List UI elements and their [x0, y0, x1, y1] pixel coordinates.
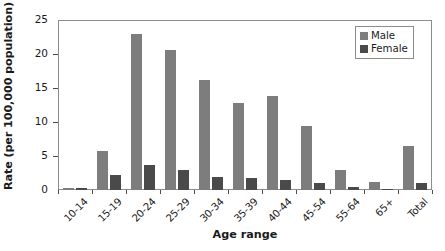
legend-swatch-icon	[360, 32, 368, 40]
bar-female-20-24	[144, 165, 156, 190]
x-tick-mark	[296, 190, 297, 194]
bar-group	[199, 20, 224, 190]
legend-swatch-icon	[360, 45, 368, 53]
x-tick-label: Total	[406, 196, 430, 220]
bar-female-40-44	[280, 180, 292, 190]
bar-female-10-14	[76, 188, 88, 190]
y-tick-label: 25	[35, 13, 48, 25]
x-tick-mark	[92, 190, 93, 194]
x-tick-mark	[364, 190, 365, 194]
x-tick-mark	[126, 190, 127, 194]
x-tick-mark	[398, 190, 399, 194]
x-tick-mark	[330, 190, 331, 194]
bar-female-55-64	[348, 187, 360, 190]
bar-group	[301, 20, 326, 190]
x-tick-label: 45-54	[300, 196, 328, 224]
bar-female-30-34	[212, 177, 224, 190]
bar-group	[63, 20, 88, 190]
bar-female-45-54	[314, 183, 326, 190]
bar-group	[131, 20, 156, 190]
bar-female-35-39	[246, 178, 258, 190]
x-tick-label: 35-39	[232, 196, 260, 224]
x-tick-label: 30-34	[198, 196, 226, 224]
legend-item-male: Male	[360, 29, 408, 42]
y-tick-label: 5	[41, 149, 48, 161]
y-tick-label: 15	[35, 81, 48, 93]
x-tick-label: 40-44	[266, 196, 294, 224]
bar-male-Total	[403, 146, 415, 190]
bar-male-20-24	[131, 34, 143, 190]
y-axis-title: Rate (per 100,000 population)	[2, 0, 20, 196]
bar-female-Total	[416, 183, 428, 190]
bar-group	[233, 20, 258, 190]
bar-group	[165, 20, 190, 190]
bar-chart: Rate (per 100,000 population) 0510152025…	[0, 0, 445, 251]
x-tick-mark	[194, 190, 195, 194]
legend-label: Female	[371, 42, 408, 55]
bar-group	[97, 20, 122, 190]
x-tick-label: 20-24	[130, 196, 158, 224]
legend-item-female: Female	[360, 42, 408, 55]
x-tick-mark	[432, 190, 433, 194]
x-tick-label: 25-29	[164, 196, 192, 224]
x-tick-mark	[160, 190, 161, 194]
x-tick-label: 15-19	[96, 196, 124, 224]
bar-male-45-54	[301, 126, 313, 190]
x-tick-mark	[262, 190, 263, 194]
chart-legend: MaleFemale	[355, 26, 414, 59]
bar-female-25-29	[178, 170, 190, 190]
y-tick-label: 20	[35, 47, 48, 59]
bar-male-10-14	[63, 188, 75, 190]
bar-male-30-34	[199, 80, 211, 190]
x-tick-label: 10-14	[62, 196, 90, 224]
bar-male-65+	[369, 182, 381, 190]
bar-male-40-44	[267, 96, 279, 190]
x-axis-title: Age range	[58, 228, 432, 241]
bar-group	[267, 20, 292, 190]
y-tick-label: 10	[35, 115, 48, 127]
bar-male-35-39	[233, 103, 245, 190]
legend-label: Male	[371, 29, 395, 42]
bar-female-65+	[382, 189, 394, 190]
x-tick-mark	[58, 190, 59, 194]
bar-male-55-64	[335, 170, 347, 190]
y-tick-label: 0	[41, 183, 48, 195]
bar-male-25-29	[165, 50, 177, 190]
x-tick-mark	[228, 190, 229, 194]
bar-female-15-19	[110, 175, 122, 190]
x-tick-label: 65+	[373, 196, 396, 219]
bar-male-15-19	[97, 151, 109, 190]
x-tick-label: 55-64	[334, 196, 362, 224]
